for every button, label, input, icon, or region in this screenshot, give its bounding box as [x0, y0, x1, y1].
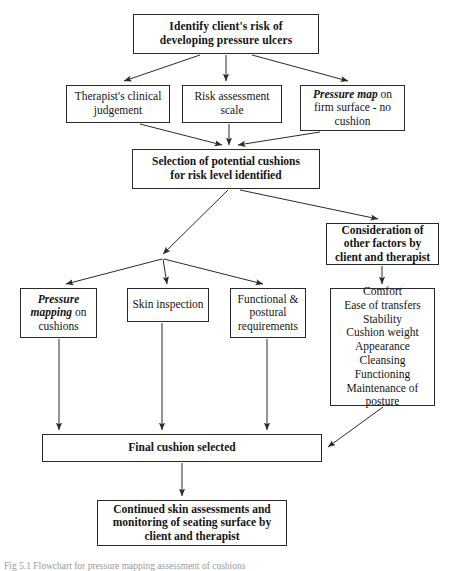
factors-item: Comfort — [363, 285, 402, 297]
node-continued-text: Continued skin assessments and monitorin… — [101, 503, 283, 544]
node-pressure-mapping-on-cushions: Pressure mapping on cushions — [20, 288, 97, 338]
edge-factors-final — [328, 407, 383, 447]
edge-selection-consideration — [240, 190, 378, 219]
node-functional-postural-requirements: Functional & postural requirements — [230, 288, 306, 338]
edge-identify-therapist — [124, 55, 200, 81]
node-identify-text: Identify client's risk of developing pre… — [137, 20, 315, 47]
node-final-text: Final cushion selected — [46, 441, 318, 455]
node-continued-skin-assessments: Continued skin assessments and monitorin… — [97, 500, 287, 546]
factors-item: Functioning — [355, 368, 411, 380]
node-skin-inspection: Skin inspection — [127, 288, 209, 322]
node-therapist-text: Therapist's clinical judgement — [70, 90, 166, 117]
edge-selection-junction — [163, 190, 228, 254]
node-consideration-of-other-factors: Consideration of other factors by client… — [326, 223, 439, 265]
node-functional-text: Functional & postural requirements — [234, 293, 302, 334]
pressure-mapping-emphasis-1: Pressure — [38, 293, 80, 305]
node-pressure-map-firm-surface: Pressure map on firm surface - no cushio… — [300, 85, 405, 131]
factors-item: Cleansing — [360, 354, 406, 366]
node-final-cushion-selected: Final cushion selected — [42, 434, 322, 462]
edge-therapist-selection — [140, 124, 222, 145]
node-pressure-map-text: Pressure map on firm surface - no cushio… — [304, 88, 401, 129]
factors-item: Cushion weight — [346, 326, 419, 338]
node-selection-text: Selection of potential cushions for risk… — [136, 155, 316, 182]
factors-list: Comfort Ease of transfers Stability Cush… — [334, 285, 431, 409]
factors-item: Ease of transfers — [344, 299, 421, 311]
flowchart-figure: Identify client's risk of developing pre… — [0, 0, 453, 571]
node-consideration-text: Consideration of other factors by client… — [330, 224, 435, 265]
edge-identify-pressuremap — [252, 55, 348, 81]
node-skin-text: Skin inspection — [131, 298, 205, 312]
edge-junction-skin — [163, 259, 167, 284]
node-mapping-text: Pressure mapping on cushions — [24, 293, 93, 334]
node-risk-scale-text: Risk assessment scale — [186, 90, 278, 117]
edge-junction-mapping — [66, 259, 162, 284]
node-identify-client-risk: Identify client's risk of developing pre… — [133, 14, 319, 54]
node-risk-assessment-scale: Risk assessment scale — [182, 85, 282, 123]
factors-item: Maintenance of — [347, 382, 419, 394]
node-selection-of-potential-cushions: Selection of potential cushions for risk… — [132, 149, 320, 189]
figure-caption: Fig 5.1 Flowchart for pressure mapping a… — [4, 561, 304, 571]
pressure-map-emphasis: Pressure map — [313, 88, 378, 100]
node-therapists-clinical-judgement: Therapist's clinical judgement — [66, 85, 170, 123]
factors-item: posture — [366, 395, 400, 407]
factors-item: Appearance — [355, 340, 410, 352]
pressure-mapping-emphasis-2: mapping — [31, 306, 73, 318]
node-other-factors-list: Comfort Ease of transfers Stability Cush… — [330, 288, 435, 406]
edge-junction-functional — [164, 259, 263, 284]
edge-pressuremap-selection — [238, 132, 320, 145]
factors-item: Stability — [363, 313, 402, 325]
